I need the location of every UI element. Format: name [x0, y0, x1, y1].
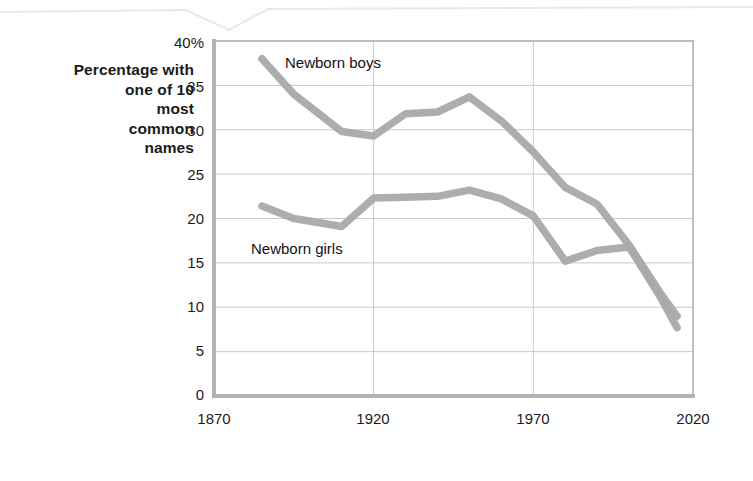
chart-figure: Percentage with one of 10 most common na…: [0, 0, 753, 481]
series-label-girls: Newborn girls: [251, 240, 343, 257]
plot-area: [0, 0, 753, 481]
series-label-boys: Newborn boys: [285, 54, 381, 71]
series-group: [262, 59, 677, 328]
